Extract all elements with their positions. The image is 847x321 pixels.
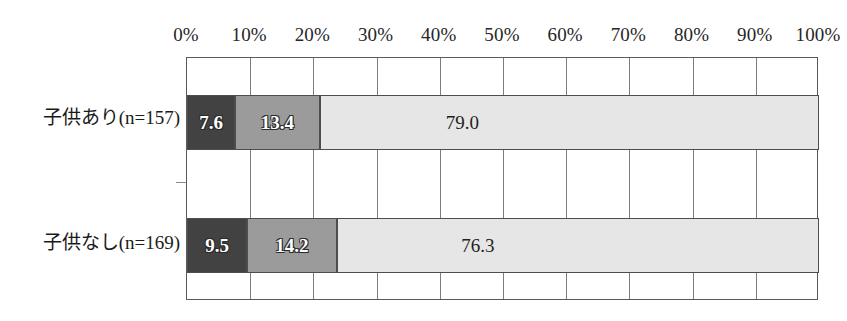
- x-axis-tick-70: 70%: [611, 22, 646, 48]
- x-axis-tick-10: 10%: [231, 22, 266, 48]
- bar-value-nashi-3: 76.3: [461, 236, 494, 256]
- bar-value-nashi-2: 14.2: [275, 236, 308, 256]
- x-axis-tick-20: 20%: [295, 22, 330, 48]
- bar-row-kodomo-ari: 7.6 13.4 79.0: [187, 95, 819, 150]
- x-axis-tick-90: 90%: [737, 22, 772, 48]
- x-axis-tick-100: 100%: [795, 22, 840, 48]
- bar-value-nashi-1: 9.5: [205, 236, 229, 256]
- stacked-bar-chart: 0% 10% 20% 30% 40% 50% 60% 70% 80% 90% 1…: [0, 0, 847, 321]
- bar-segment-ari-2[interactable]: 13.4: [235, 95, 320, 150]
- bar-segment-nashi-1[interactable]: 9.5: [187, 218, 247, 273]
- category-label-kodomo-nashi: 子供なし(n=169): [0, 232, 180, 254]
- x-axis-tick-80: 80%: [674, 22, 709, 48]
- bar-segment-ari-1[interactable]: 7.6: [187, 95, 235, 150]
- x-axis-tick-0: 0%: [173, 22, 199, 48]
- bar-row-kodomo-nashi: 9.5 14.2 76.3: [187, 218, 819, 273]
- x-axis-tick-60: 60%: [547, 22, 582, 48]
- bar-value-ari-2: 13.4: [261, 113, 294, 133]
- plot-area: 7.6 13.4 79.0 9.5 14.2 76.3: [186, 57, 818, 300]
- x-axis-tick-30: 30%: [358, 22, 393, 48]
- x-axis-tick-labels: 0% 10% 20% 30% 40% 50% 60% 70% 80% 90% 1…: [186, 22, 818, 48]
- bar-value-ari-1: 7.6: [199, 113, 223, 133]
- bar-segment-nashi-3[interactable]: 76.3: [337, 218, 819, 273]
- x-axis-tick-40: 40%: [421, 22, 456, 48]
- x-axis-tick-50: 50%: [484, 22, 519, 48]
- bar-value-ari-3: 79.0: [446, 113, 479, 133]
- category-label-kodomo-ari: 子供あり(n=157): [0, 107, 180, 129]
- y-axis-tick-mark: [176, 182, 186, 183]
- bar-segment-ari-3[interactable]: 79.0: [320, 95, 819, 150]
- bar-segment-nashi-2[interactable]: 14.2: [247, 218, 337, 273]
